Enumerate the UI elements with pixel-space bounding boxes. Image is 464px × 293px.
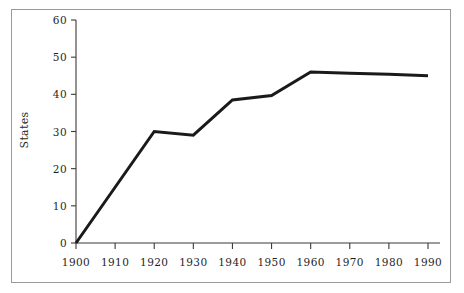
y-axis-tick-label: 20 [45, 163, 67, 175]
x-axis-tick-label: 1920 [140, 256, 168, 268]
x-axis-tick-label: 1950 [257, 256, 285, 268]
x-axis-tick-label: 1940 [218, 256, 246, 268]
y-axis-tick-label: 60 [45, 14, 67, 26]
x-axis-tick-label: 1960 [296, 256, 324, 268]
x-axis-tick-label: 1930 [179, 256, 207, 268]
x-axis-tick-label: 1910 [101, 256, 129, 268]
x-axis-tick-label: 1900 [62, 256, 90, 268]
y-axis-tick-label: 0 [45, 237, 67, 249]
x-axis-tick-label: 1980 [375, 256, 403, 268]
x-axis-tick-label: 1990 [414, 256, 442, 268]
figure-frame [11, 9, 451, 283]
y-axis-tick-label: 10 [45, 200, 67, 212]
y-axis-title: States [18, 112, 31, 149]
x-axis-tick-label: 1970 [336, 256, 364, 268]
y-axis-tick-label: 50 [45, 51, 67, 63]
chart-figure: 0102030405060 19001910192019301940195019… [0, 0, 464, 293]
y-axis-tick-label: 40 [45, 88, 67, 100]
y-axis-tick-label: 30 [45, 126, 67, 138]
